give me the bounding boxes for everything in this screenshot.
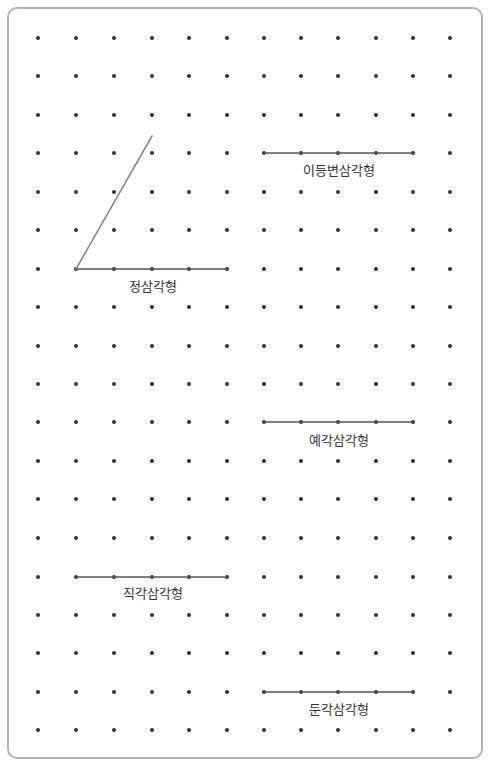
grid-dot bbox=[374, 228, 378, 232]
grid-dot bbox=[411, 536, 415, 540]
grid-dot bbox=[262, 651, 266, 655]
grid-dot bbox=[112, 36, 116, 40]
grid-dot bbox=[150, 344, 154, 348]
grid-dot bbox=[262, 344, 266, 348]
dot-grid-canvas bbox=[0, 0, 494, 768]
grid-dot bbox=[336, 228, 340, 232]
grid-dot bbox=[112, 382, 116, 386]
grid-dot bbox=[374, 536, 378, 540]
grid-dot bbox=[262, 267, 266, 271]
grid-dot bbox=[36, 151, 40, 155]
grid-dot bbox=[74, 151, 78, 155]
grid-dot bbox=[299, 536, 303, 540]
label-acute-triangle: 예각삼각형 bbox=[309, 430, 369, 449]
grid-dot bbox=[187, 651, 191, 655]
label-equilateral-triangle: 정삼각형 bbox=[129, 276, 177, 295]
grid-dot bbox=[225, 36, 229, 40]
grid-dot bbox=[187, 344, 191, 348]
grid-dot bbox=[299, 267, 303, 271]
grid-dot bbox=[74, 497, 78, 501]
grid-dot bbox=[374, 74, 378, 78]
grid-dot bbox=[112, 305, 116, 309]
grid-dot bbox=[374, 575, 378, 579]
grid-dot bbox=[374, 305, 378, 309]
grid-dot bbox=[150, 74, 154, 78]
grid-dot bbox=[374, 613, 378, 617]
grid-dot bbox=[74, 228, 78, 232]
grid-dot bbox=[225, 536, 229, 540]
grid-dot bbox=[36, 74, 40, 78]
grid-dot bbox=[448, 36, 452, 40]
grid-dot bbox=[36, 613, 40, 617]
grid-dot bbox=[36, 228, 40, 232]
grid-dot bbox=[225, 651, 229, 655]
grid-dot bbox=[112, 651, 116, 655]
grid-dot bbox=[411, 305, 415, 309]
grid-dot bbox=[150, 151, 154, 155]
grid-dot bbox=[299, 651, 303, 655]
grid-dot bbox=[74, 459, 78, 463]
grid-dot bbox=[336, 382, 340, 386]
grid-dot bbox=[336, 575, 340, 579]
grid-dot bbox=[112, 497, 116, 501]
grid-dot bbox=[36, 36, 40, 40]
grid-dot bbox=[225, 497, 229, 501]
grid-dot bbox=[112, 151, 116, 155]
grid-dot bbox=[74, 613, 78, 617]
grid-dot bbox=[150, 190, 154, 194]
grid-dot bbox=[448, 420, 452, 424]
grid-dot bbox=[262, 190, 266, 194]
grid-dot bbox=[262, 36, 266, 40]
grid-dot bbox=[225, 690, 229, 694]
grid-dot bbox=[112, 74, 116, 78]
grid-dot bbox=[187, 151, 191, 155]
grid-dot bbox=[150, 651, 154, 655]
grid-dot bbox=[74, 36, 78, 40]
grid-dot bbox=[150, 536, 154, 540]
grid-dot bbox=[150, 113, 154, 117]
grid-dot bbox=[262, 305, 266, 309]
grid-dot bbox=[112, 690, 116, 694]
grid-dot bbox=[112, 190, 116, 194]
grid-dot bbox=[150, 690, 154, 694]
grid-dot bbox=[150, 420, 154, 424]
grid-dot bbox=[299, 575, 303, 579]
grid-dot bbox=[112, 113, 116, 117]
grid-dot bbox=[187, 690, 191, 694]
grid-dot bbox=[36, 190, 40, 194]
grid-dot bbox=[299, 228, 303, 232]
grid-dot bbox=[74, 344, 78, 348]
grid-dot bbox=[187, 382, 191, 386]
grid-dot bbox=[448, 613, 452, 617]
grid-dot bbox=[225, 344, 229, 348]
grid-dot bbox=[150, 613, 154, 617]
grid-dot bbox=[187, 228, 191, 232]
grid-dot bbox=[448, 497, 452, 501]
grid-dot bbox=[112, 459, 116, 463]
grid-dot bbox=[262, 113, 266, 117]
grid-dot bbox=[225, 420, 229, 424]
grid-dot bbox=[448, 190, 452, 194]
grid-dot bbox=[448, 536, 452, 540]
grid-dot bbox=[374, 113, 378, 117]
grid-dot bbox=[411, 497, 415, 501]
grid-dot bbox=[150, 305, 154, 309]
grid-dot bbox=[262, 497, 266, 501]
grid-dot bbox=[374, 344, 378, 348]
grid-dot bbox=[225, 613, 229, 617]
grid-dot bbox=[36, 459, 40, 463]
grid-dot bbox=[150, 36, 154, 40]
grid-dot bbox=[336, 36, 340, 40]
grid-dot bbox=[336, 344, 340, 348]
grid-dot bbox=[336, 190, 340, 194]
grid-dot bbox=[112, 536, 116, 540]
grid-dot bbox=[448, 728, 452, 732]
grid-dot bbox=[150, 459, 154, 463]
grid-dot bbox=[299, 497, 303, 501]
grid-dot bbox=[374, 267, 378, 271]
grid-dot bbox=[36, 651, 40, 655]
grid-dot bbox=[448, 305, 452, 309]
grid-dot bbox=[36, 690, 40, 694]
grid-dot bbox=[374, 190, 378, 194]
grid-dot bbox=[374, 497, 378, 501]
